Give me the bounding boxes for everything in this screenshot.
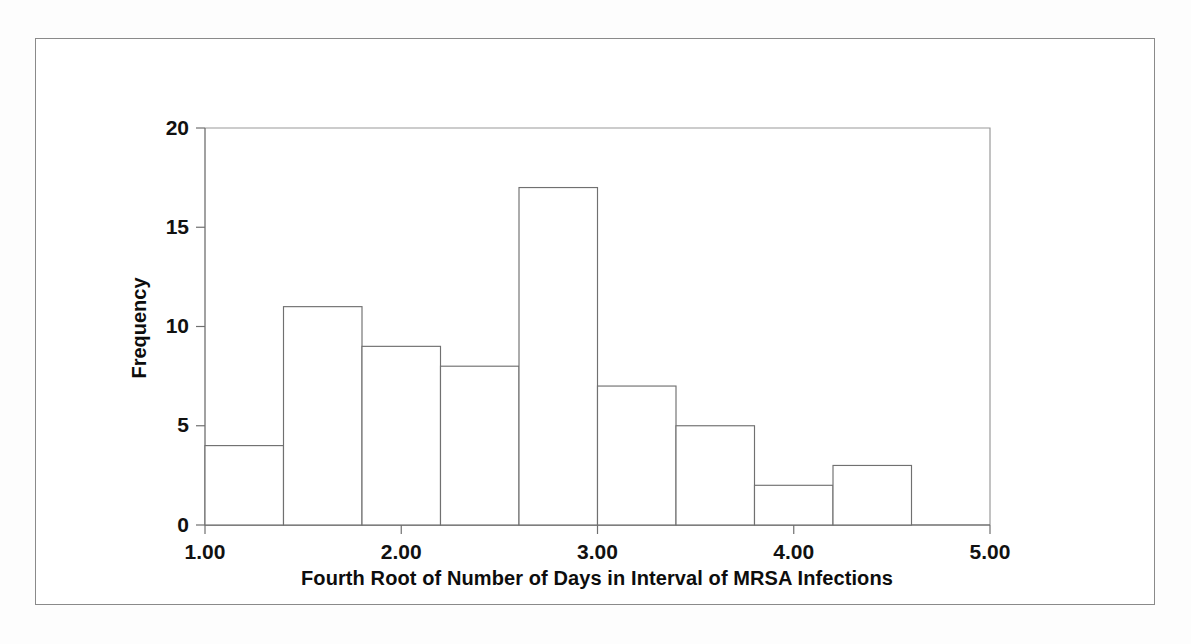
histogram-bar [755, 485, 834, 525]
histogram-page: 05101520 1.002.003.004.005.00 Fourth Roo… [0, 0, 1191, 644]
y-axis-tick-labels: 05101520 [166, 116, 190, 536]
x-axis-title: Fourth Root of Number of Days in Interva… [301, 567, 893, 589]
histogram-bar [205, 446, 284, 525]
x-axis-tick-labels: 1.002.003.004.005.00 [185, 540, 1011, 563]
histogram-chart: 05101520 1.002.003.004.005.00 Fourth Roo… [0, 0, 1191, 644]
x-tick-label: 3.00 [577, 540, 618, 563]
histogram-bar [833, 465, 912, 525]
histogram-bars [205, 188, 912, 525]
x-tick-label: 4.00 [773, 540, 814, 563]
y-tick-label: 20 [166, 116, 189, 139]
x-tick-label: 1.00 [185, 540, 226, 563]
histogram-bar [676, 426, 755, 525]
histogram-svg: 05101520 1.002.003.004.005.00 Fourth Roo… [0, 0, 1191, 644]
histogram-bar [519, 188, 598, 525]
y-tick-label: 0 [177, 513, 189, 536]
x-tick-label: 2.00 [381, 540, 422, 563]
y-axis-ticks [196, 128, 205, 525]
histogram-bar [284, 307, 363, 525]
y-tick-label: 10 [166, 314, 189, 337]
y-tick-label: 5 [177, 413, 189, 436]
histogram-bar [598, 386, 677, 525]
histogram-bar [362, 346, 441, 525]
histogram-bar [441, 366, 520, 525]
x-axis-ticks [205, 525, 990, 534]
y-axis-title: Frequency [128, 277, 150, 379]
x-tick-label: 5.00 [970, 540, 1011, 563]
y-tick-label: 15 [166, 215, 190, 238]
